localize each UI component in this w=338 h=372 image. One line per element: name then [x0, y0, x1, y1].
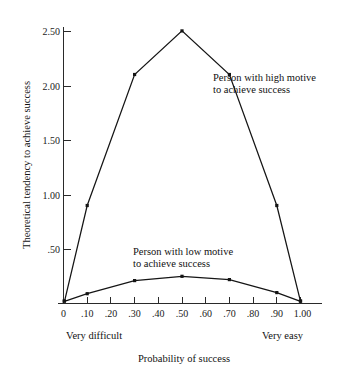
x-tick-label-.40: .40	[152, 308, 165, 319]
low-motive-point-0	[63, 300, 66, 303]
x-tick-label-.20: .20	[105, 308, 118, 319]
chart-figure: 2.50 2.00 1.50 1.00 .50 Theoretical tend…	[0, 0, 338, 372]
x-tick-label-.10: .10	[81, 308, 94, 319]
low-motive-annotation-line-2: to achieve success	[133, 258, 210, 269]
high-motive-point-.50	[180, 29, 183, 32]
y-tick-label-2.00: 2.00	[43, 81, 61, 92]
low-motive-annotation-line-1: Person with low motive	[133, 246, 233, 257]
high-motive-annotation-line-1: Person with high motive	[213, 72, 316, 83]
x-tick-label-.90: .90	[271, 308, 284, 319]
y-tick-label-0.50: .50	[48, 244, 61, 255]
x-tick-label-.30: .30	[128, 308, 141, 319]
x-tick-label-0: 0	[61, 308, 66, 319]
x-tick-label-.50: .50	[176, 308, 189, 319]
high-motive-point-.10	[86, 204, 89, 207]
high-motive-point-.90	[275, 204, 278, 207]
high-motive-point-.30	[133, 73, 136, 76]
x-axis-left-end-label: Very difficult	[66, 330, 122, 341]
x-tick-label-1.00: 1.00	[294, 308, 312, 319]
x-tick-label-.60: .60	[199, 308, 212, 319]
y-tick-label-1.50: 1.50	[43, 135, 61, 146]
y-axis-title: Theoretical tendency to achieve success	[21, 81, 32, 249]
motivation-curve-chart: 2.50 2.00 1.50 1.00 .50 Theoretical tend…	[0, 0, 338, 372]
x-tick-label-.70: .70	[223, 308, 236, 319]
low-motive-point-.10	[86, 292, 89, 295]
low-motive-point-.90	[275, 291, 278, 294]
chart-background	[0, 0, 338, 372]
low-motive-point-.70	[228, 278, 231, 281]
low-motive-point-1.00	[299, 300, 302, 303]
low-motive-point-.30	[133, 279, 136, 282]
high-motive-annotation-line-2: to achieve success	[213, 84, 290, 95]
y-tick-label-1.00: 1.00	[43, 190, 61, 201]
y-tick-label-2.50: 2.50	[43, 26, 61, 37]
x-tick-label-.80: .80	[247, 308, 260, 319]
x-axis-right-end-label: Very easy	[262, 330, 304, 341]
x-axis-title: Probability of success	[138, 353, 230, 364]
low-motive-point-.50	[180, 275, 183, 278]
